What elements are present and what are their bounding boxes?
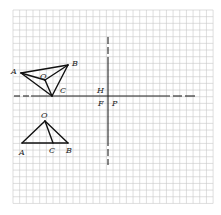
- label-lower-B: B: [65, 146, 72, 155]
- coordinate-axes: [14, 37, 195, 165]
- label-F: F: [97, 99, 104, 108]
- label-lower-A: A: [18, 148, 25, 157]
- lower-triangle-figure: [22, 121, 68, 143]
- label-upper-O: O: [40, 72, 47, 81]
- label-upper-C: C: [60, 86, 66, 95]
- geometry-diagram: A B O C H F P O A C B: [0, 0, 221, 215]
- lower-segment-OA: [22, 121, 45, 143]
- label-upper-A: A: [10, 67, 17, 76]
- label-H: H: [96, 86, 105, 95]
- label-lower-O: O: [41, 111, 48, 120]
- label-lower-C: C: [49, 146, 55, 155]
- label-upper-B: B: [71, 59, 78, 68]
- label-P: P: [111, 99, 118, 108]
